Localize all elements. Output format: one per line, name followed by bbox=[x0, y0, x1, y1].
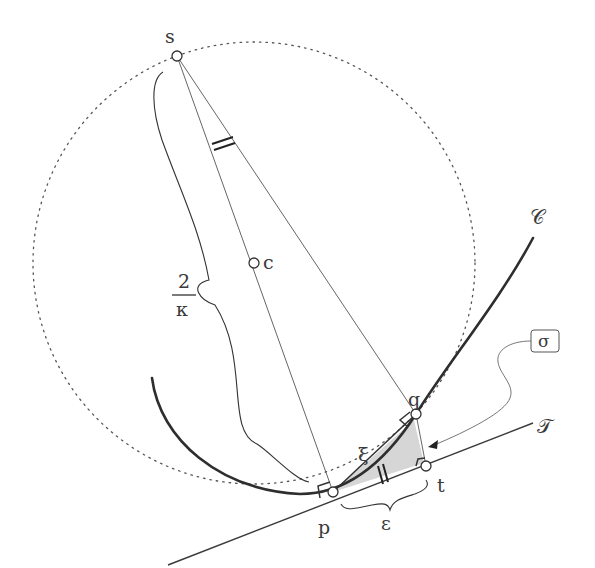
sigma-arrowhead-icon bbox=[428, 440, 438, 449]
point-p bbox=[328, 487, 338, 497]
label-diameter-denominator: κ bbox=[176, 298, 188, 320]
label-p: p bbox=[318, 516, 330, 538]
label-s: s bbox=[165, 25, 175, 47]
shaded-triangle-sigma bbox=[333, 420, 424, 492]
diagram-canvas: s c p q t 𝒞 𝒯 σ ξ ε 2 κ bbox=[0, 0, 595, 568]
label-curve: 𝒞 bbox=[530, 205, 547, 229]
point-t bbox=[421, 461, 431, 471]
label-xi: ξ bbox=[358, 443, 368, 465]
label-tangent: 𝒯 bbox=[537, 414, 555, 438]
label-diameter-numerator: 2 bbox=[178, 270, 190, 292]
angle-mark-at-s bbox=[212, 137, 235, 150]
curve-c bbox=[152, 238, 533, 494]
label-q: q bbox=[408, 388, 420, 410]
line-s-q bbox=[177, 56, 416, 414]
label-c: c bbox=[263, 251, 274, 273]
line-s-p bbox=[177, 56, 333, 492]
point-c bbox=[249, 258, 259, 268]
label-t: t bbox=[437, 474, 445, 496]
tangent-line bbox=[168, 423, 533, 565]
point-s bbox=[172, 51, 182, 61]
label-epsilon: ε bbox=[381, 512, 391, 534]
point-q bbox=[411, 409, 421, 419]
label-sigma: σ bbox=[538, 331, 550, 351]
